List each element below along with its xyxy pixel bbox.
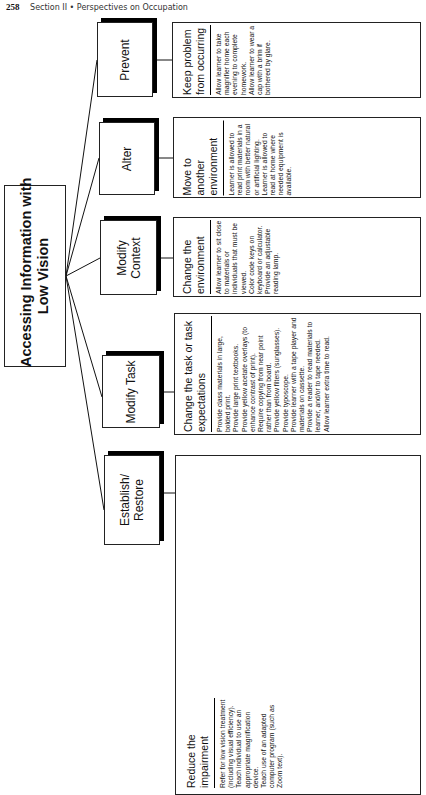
category-modify-context-label-1: Modify [115,220,129,295]
central-node: Accessing Information with Low Vision [4,185,66,367]
connector-establish [66,276,104,510]
strategy-item: Provide an adjustable reading lamp. [264,220,280,294]
connector-prevent [66,60,97,276]
strategy-item: Allow learner to sit close to materials … [215,220,248,294]
strategy-item: Provide a reader to read materials to le… [306,316,322,432]
goal-modify-context: Change the environment [181,220,211,294]
category-modify-task: Modify Task [102,355,160,428]
category-modify-context: Modify Context [100,220,157,295]
category-establish-label-2: Restore [132,455,146,545]
category-establish-label-1: Establish/ [118,455,132,545]
description-modify-context: Change the environment Allow learner to … [173,217,421,297]
connector-modify-context [66,258,100,276]
strategy-item: Require copying from near point rather t… [257,316,273,432]
central-title-line-2: Low Vision [35,185,52,367]
category-modify-task-label: Modify Task [124,355,138,428]
strategy-item: Allow learner to take magnifier home eac… [215,25,248,95]
category-establish-restore: Establish/ Restore [104,455,160,545]
central-title-line-1: Accessing Information with [18,185,35,367]
connector-modify-task [66,276,102,397]
description-establish-restore: Reduce the impairment Refer for low visi… [175,455,421,795]
category-alter: Alter [99,122,155,195]
goal-modify-task: Change the task or task expectations [182,316,212,432]
connector-alter [66,158,99,276]
strategy-item: Learner is allowed to read at home where… [261,120,294,195]
strategy-item: Teach use of an adapted computer program… [260,698,285,788]
strategy-item: Provide typoscope. [281,316,289,432]
goal-alter: Move to another environment [181,120,224,195]
goal-establish-restore: Reduce the impairment [185,698,215,788]
strategy-item: Provide yellow acetate overlays (to enha… [240,316,256,432]
strategy-item: Allow learner to wear a cap with a brim … [247,25,272,95]
strategy-item: Allow learner extra time to read. [322,316,330,432]
strategy-item: Provide learner with a tape player and m… [289,316,305,432]
goal-prevent: Keep problem from occurring [181,25,211,95]
category-modify-context-label-2: Context [129,220,143,295]
description-modify-task: Change the task or task expectations Pro… [174,313,421,435]
strategy-item: Provide large print textbooks. [232,316,240,432]
description-prevent: Keep problem from occurring Allow learne… [172,22,421,98]
strategy-item: Learner is allowed to read print materia… [228,120,261,195]
strategy-item: Refer for low vision treatment (includin… [219,698,235,788]
category-alter-label: Alter [120,122,134,195]
strategy-item: Color code keys on keyboard or calculato… [248,220,264,294]
strategy-item: Provide class materials in large, bolded… [216,316,232,432]
strategy-item: Provide yellow filters (sunglasses). [273,316,281,432]
description-alter: Move to another environment Learner is a… [173,117,421,198]
category-prevent-label: Prevent [118,22,132,97]
category-prevent: Prevent [97,22,153,97]
strategy-item: Teach individual to use an appropriate m… [235,698,260,788]
